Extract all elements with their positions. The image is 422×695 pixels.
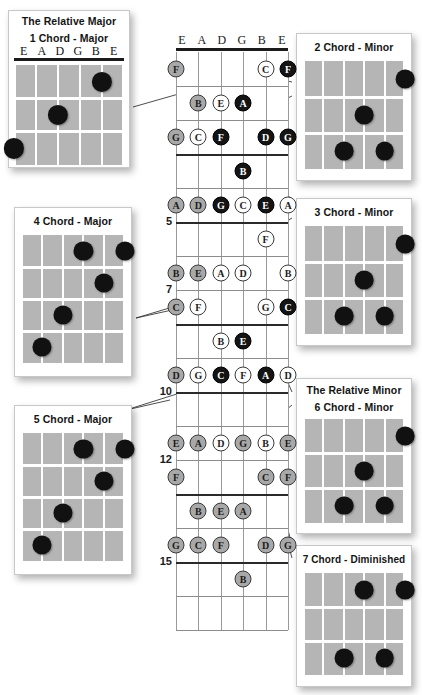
chord-finger-dot[interactable] [53,305,72,324]
fretboard-note[interactable]: G [280,129,297,146]
fretboard-note[interactable]: B [190,95,207,112]
chord-card-5[interactable]: 5 Chord - Major [14,405,132,575]
fretboard-note[interactable]: B [235,163,252,180]
fretboard-note[interactable]: G [190,367,207,384]
fretboard-note[interactable]: C [235,197,252,214]
fretboard-note[interactable]: F [168,61,185,78]
chord-finger-dot[interactable] [74,241,93,260]
fretboard-note[interactable]: F [190,299,207,316]
fretboard-fret-line [176,392,288,394]
fretboard-note[interactable]: E [235,333,252,350]
fretboard-note[interactable]: F [280,469,297,486]
fretboard-note[interactable]: C [280,299,297,316]
chord-card-7[interactable]: 7 Chord - Diminished [296,545,412,687]
chord-5-grid[interactable] [21,433,125,561]
chord-finger-dot[interactable] [74,439,93,458]
chord-6-grid[interactable] [303,419,405,523]
fretboard-note[interactable]: G [235,435,252,452]
fretboard-note[interactable]: F [280,61,297,78]
fretboard-note[interactable]: C [257,469,274,486]
fretboard-note[interactable]: G [212,197,229,214]
chord-finger-dot[interactable] [92,72,112,92]
fretboard-note[interactable]: D [190,197,207,214]
fretboard-note[interactable]: B [280,265,297,282]
chord-card-1[interactable]: The Relative Major 1 Chord - Major E A D… [8,10,130,168]
chord-finger-dot[interactable] [355,106,374,125]
chord-finger-dot[interactable] [4,138,24,158]
fretboard-note[interactable]: D [257,537,274,554]
chord-card-6[interactable]: The Relative Minor 6 Chord - Minor [296,378,412,534]
fretboard-note[interactable]: E [212,503,229,520]
chord-finger-dot[interactable] [375,496,394,515]
chord-finger-dot[interactable] [355,581,374,600]
chord-finger-dot[interactable] [48,105,68,125]
fretboard-note[interactable]: A [257,367,274,384]
fretboard-note[interactable]: B [190,503,207,520]
chord-finger-dot[interactable] [375,649,394,668]
fretboard-note[interactable]: A [190,435,207,452]
fretboard-note[interactable]: B [235,571,252,588]
fretboard-note[interactable]: B [168,265,185,282]
fretboard-note[interactable]: F [212,129,229,146]
fretboard-note[interactable]: D [168,367,185,384]
fretboard-note[interactable]: A [235,503,252,520]
fretboard-note[interactable]: G [168,129,185,146]
fretboard-note[interactable]: A [235,95,252,112]
chord-finger-dot[interactable] [334,142,353,161]
chord-finger-dot[interactable] [115,241,134,260]
chord-finger-dot[interactable] [115,439,134,458]
fretboard-note[interactable]: D [280,367,297,384]
fretboard-note[interactable]: B [212,333,229,350]
fretboard-note[interactable]: D [212,435,229,452]
chord-finger-dot[interactable] [334,496,353,515]
chord-3-grid[interactable] [303,226,405,334]
chord-finger-dot[interactable] [334,307,353,326]
fretboard-note[interactable]: A [168,197,185,214]
chord-6-heading: The Relative Minor [297,379,411,397]
chord-2-grid[interactable] [303,61,405,169]
chord-4-grid[interactable] [21,235,125,363]
chord-finger-dot[interactable] [375,307,394,326]
fretboard-note[interactable]: F [168,469,185,486]
fretboard-note[interactable]: E [212,95,229,112]
chord-card-3[interactable]: 3 Chord - Minor [296,198,412,346]
fretboard-note[interactable]: G [257,299,274,316]
fretboard-note[interactable]: B [257,435,274,452]
chord-finger-dot[interactable] [355,462,374,481]
fretboard-note[interactable]: E [168,435,185,452]
chord-finger-dot[interactable] [375,142,394,161]
chord-finger-dot[interactable] [396,427,415,446]
fretboard-note[interactable]: G [168,537,185,554]
chord-finger-dot[interactable] [396,581,415,600]
chord-finger-dot[interactable] [396,235,415,254]
string-label-g: G [232,33,252,48]
chord-finger-dot[interactable] [334,649,353,668]
fretboard-note[interactable]: E [280,435,297,452]
fretboard-note[interactable]: C [257,61,274,78]
chord-finger-dot[interactable] [32,535,51,554]
fretboard-note[interactable]: F [235,367,252,384]
fretboard-note[interactable]: D [257,129,274,146]
chord-1-grid[interactable] [14,65,124,165]
chord-finger-dot[interactable] [53,503,72,522]
chord-finger-dot[interactable] [355,271,374,290]
fretboard-note[interactable]: F [257,231,274,248]
fretboard-note[interactable]: A [212,265,229,282]
chord-finger-dot[interactable] [32,337,51,356]
chord-finger-dot[interactable] [396,70,415,89]
fretboard-note[interactable]: C [190,129,207,146]
chord-card-2[interactable]: 2 Chord - Minor [296,33,412,181]
fretboard-note[interactable]: C [190,537,207,554]
chord-card-4[interactable]: 4 Chord - Major [14,207,132,377]
fretboard-note[interactable]: A [280,197,297,214]
fretboard-note[interactable]: G [280,537,297,554]
fretboard-note[interactable]: F [212,537,229,554]
chord-finger-dot[interactable] [95,273,114,292]
fretboard-note[interactable]: E [190,265,207,282]
fretboard-note[interactable]: C [212,367,229,384]
fretboard-note[interactable]: D [235,265,252,282]
chord-finger-dot[interactable] [95,471,114,490]
fretboard-note[interactable]: E [257,197,274,214]
chord-7-grid[interactable] [303,573,405,675]
fretboard-note[interactable]: C [168,299,185,316]
